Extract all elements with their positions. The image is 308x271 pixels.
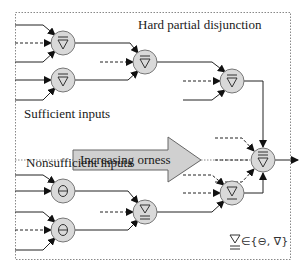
edge — [183, 90, 225, 100]
legend-text: ∈{⊖, ∇} — [241, 235, 288, 248]
nonsufficient-inputs-label: Nonsufficient inputs — [26, 155, 132, 171]
edge — [15, 51, 55, 62]
edge — [15, 212, 55, 222]
edge — [15, 25, 55, 35]
edge — [157, 201, 224, 212]
diagram-canvas — [0, 0, 308, 271]
edge — [75, 191, 138, 203]
node-a1 — [51, 31, 75, 55]
edge — [75, 43, 138, 53]
edge — [15, 175, 55, 183]
edge — [75, 220, 138, 230]
edge — [215, 169, 254, 182]
diagram-title: Hard partial disjunction — [138, 17, 261, 33]
edge — [15, 238, 55, 250]
edge — [244, 81, 263, 147]
node-e1 — [133, 200, 157, 224]
node-c1 — [220, 69, 244, 93]
edge — [215, 138, 254, 151]
edge — [15, 88, 55, 100]
node-a2 — [51, 68, 75, 92]
sufficient-inputs-label: Sufficient inputs — [24, 106, 110, 122]
node-f1 — [220, 181, 244, 205]
legend-symbol-icon — [230, 235, 240, 249]
edge — [75, 71, 138, 80]
edge — [244, 173, 263, 193]
node-b1 — [133, 50, 157, 74]
edge — [157, 62, 225, 72]
edge — [183, 175, 224, 185]
